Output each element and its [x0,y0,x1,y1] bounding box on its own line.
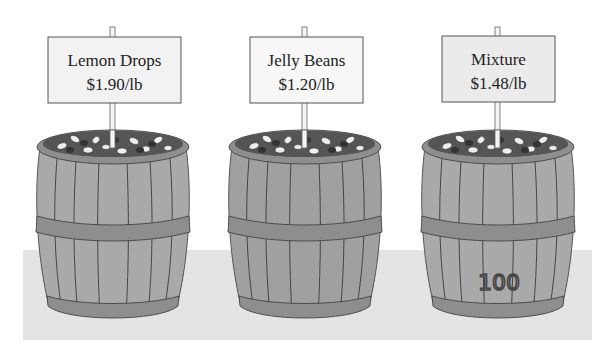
barrel-mixture: 100 Mixture $1.48/lb [421,27,575,318]
product-price: $1.48/lb [470,74,526,93]
barrel-jelly-beans: Jelly Beans $1.20/lb [228,27,382,318]
product-name: Mixture [471,50,526,69]
product-name: Lemon Drops [68,51,162,70]
product-name: Jelly Beans [268,51,346,70]
barrel-lemon-drops: Lemon Drops $1.90/lb [36,27,190,318]
product-price: $1.90/lb [86,75,142,94]
product-price: $1.20/lb [278,75,334,94]
candy-barrels-illustration: Lemon Drops $1.90/lb [0,0,614,354]
barrel-stamp: 100 [478,270,520,295]
